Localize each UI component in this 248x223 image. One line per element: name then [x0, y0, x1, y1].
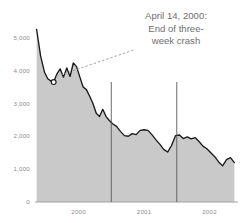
y-tick-5000: 5,000 [14, 34, 31, 41]
april-14-2000-marker [51, 80, 56, 85]
y-tick-0: 0 [26, 198, 30, 205]
series-area-fill [37, 30, 235, 203]
x-tick-2000: 2000 [71, 208, 86, 215]
annotation-line-1: April 14, 2000: [145, 10, 207, 21]
x-axis-tick-labels: 200020012002 [71, 208, 217, 215]
chart-container: 5,0004,0003,0002,0001,0000 200020012002 … [0, 0, 248, 223]
annotation-line-2: End of three- [148, 23, 203, 34]
y-axis-tick-labels: 5,0004,0003,0002,0001,0000 [14, 34, 31, 205]
crash-annotation-text: April 14, 2000:End of three-week crash [145, 10, 207, 46]
y-tick-4000: 4,000 [14, 67, 31, 74]
x-tick-2001: 2001 [137, 208, 152, 215]
area-chart: 5,0004,0003,0002,0001,0000 200020012002 … [0, 0, 248, 223]
annotation-line-3: week crash [151, 35, 201, 46]
y-tick-1000: 1,000 [14, 165, 31, 172]
y-tick-2000: 2,000 [14, 132, 31, 139]
y-tick-3000: 3,000 [14, 100, 31, 107]
x-tick-2002: 2002 [202, 208, 217, 215]
